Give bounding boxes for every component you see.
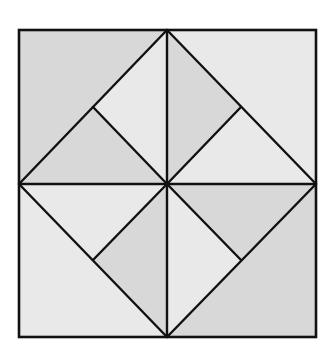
geometric-figure — [0, 0, 328, 349]
